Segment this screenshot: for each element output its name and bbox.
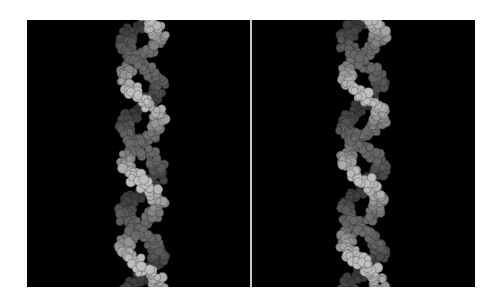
dna-helix-right [252,20,475,287]
right-stereo-panel [252,20,475,287]
dna-helix-left [27,20,250,287]
left-stereo-panel [27,20,250,287]
stereo-figure [27,20,475,287]
